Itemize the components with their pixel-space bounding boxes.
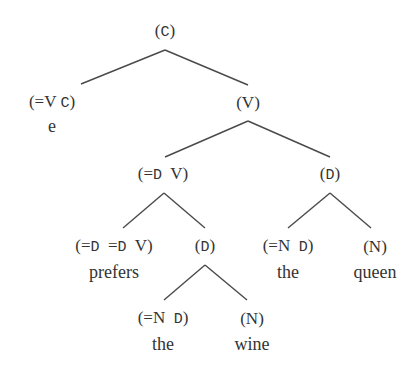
- label-segment: ): [335, 164, 341, 183]
- tree-edge-root-to-vp: [165, 50, 248, 85]
- node-label-noun-object: (N): [240, 310, 264, 328]
- label-segment: (N): [363, 237, 387, 256]
- node-label-noun-subject: (N): [363, 238, 387, 256]
- tree-edge-dp-object-to-noun-object: [205, 265, 247, 300]
- label-segment: D: [200, 239, 209, 256]
- node-label-root: (C): [155, 22, 175, 42]
- label-segment: C: [160, 24, 169, 41]
- node-label-det-object: (=N D): [138, 309, 189, 329]
- node-word-det-subject: the: [277, 262, 299, 282]
- label-segment: (N): [240, 309, 264, 328]
- label-segment: (=: [138, 164, 153, 183]
- label-segment: ): [308, 236, 314, 255]
- label-segment: (V): [236, 93, 260, 112]
- label-segment: (=N: [263, 236, 299, 255]
- label-segment: D: [325, 167, 334, 184]
- label-segment: ): [210, 236, 216, 255]
- node-word-verb: prefers: [89, 262, 139, 282]
- node-label-comp-head: (=V C): [29, 93, 75, 113]
- tree-edge-vp-to-vbar: [165, 121, 248, 157]
- tree-edge-dp-subject-to-noun-subject: [330, 193, 371, 228]
- label-segment: (=N: [138, 308, 174, 327]
- label-segment: ): [69, 92, 75, 111]
- node-label-verb: (=D =D V): [75, 237, 153, 257]
- tree-edge-root-to-comp-head: [81, 50, 165, 84]
- node-label-dp-subject: (D): [320, 165, 340, 185]
- label-segment: V): [127, 236, 153, 255]
- node-word-noun-object: wine: [235, 334, 270, 354]
- label-segment: D: [90, 239, 99, 256]
- node-label-vbar: (=D V): [138, 165, 188, 185]
- label-segment: (=V: [29, 92, 60, 111]
- tree-edge-dp-subject-to-det-subject: [288, 193, 330, 228]
- label-segment: =: [100, 236, 118, 255]
- label-segment: ): [170, 21, 176, 40]
- tree-edge-vbar-to-dp-object: [164, 193, 205, 228]
- node-word-noun-subject: queen: [354, 262, 397, 282]
- label-segment: D: [299, 239, 308, 256]
- node-label-vp: (V): [236, 94, 260, 112]
- label-segment: ): [183, 308, 189, 327]
- node-label-dp-object: (D): [195, 237, 215, 257]
- node-word-comp-head: e: [48, 116, 56, 136]
- tree-edge-dp-object-to-det-object: [164, 265, 205, 300]
- tree-edge-vp-to-dp-subject: [248, 121, 330, 157]
- tree-edges: [0, 0, 416, 368]
- label-segment: D: [174, 311, 183, 328]
- node-label-det-subject: (=N D): [263, 237, 314, 257]
- label-segment: (=: [75, 236, 90, 255]
- tree-edge-vbar-to-verb: [123, 193, 164, 228]
- label-segment: D: [153, 167, 162, 184]
- node-word-det-object: the: [152, 334, 174, 354]
- label-segment: V): [162, 164, 188, 183]
